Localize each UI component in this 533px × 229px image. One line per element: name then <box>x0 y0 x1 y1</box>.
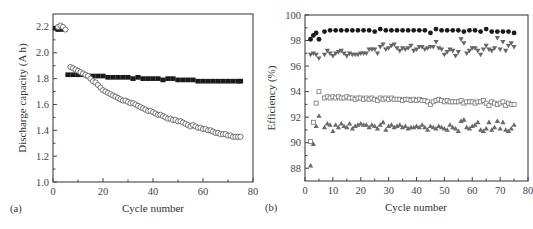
x-tick-label: 50 <box>439 185 450 196</box>
y-tick-label: 90 <box>291 137 302 148</box>
x-tick-label: 60 <box>467 185 478 196</box>
y-tick-label: 2.0 <box>36 47 49 58</box>
data-points-b <box>308 27 517 168</box>
series-filled-circles <box>308 27 516 42</box>
y-tick-label: 2.2 <box>36 21 49 32</box>
series-filled-up-triangles <box>308 113 517 167</box>
plot-frame-a <box>53 14 253 182</box>
x-tick-label: 20 <box>98 186 109 197</box>
y-tick-label: 100 <box>285 10 301 21</box>
chart-panel-a: 0204060801.01.21.41.61.82.02.2 Cycle num… <box>10 14 258 215</box>
x-tick-label: 70 <box>495 185 506 196</box>
chart-panel-b: 01020304050607080889092949698100 Cycle n… <box>265 10 533 215</box>
x-axis-label-b: Cycle number <box>385 201 447 213</box>
y-tick-label: 1.6 <box>36 99 49 110</box>
panel-label-b: (b) <box>265 202 278 214</box>
x-axis-label-a: Cycle number <box>122 202 184 214</box>
y-tick-label: 1.4 <box>36 125 50 136</box>
y-tick-label: 98 <box>291 35 302 46</box>
x-tick-label: 0 <box>302 185 307 196</box>
y-tick-label: 1.2 <box>36 151 49 162</box>
x-tick-label: 20 <box>356 185 367 196</box>
x-tick-label: 40 <box>411 185 422 196</box>
y-tick-label: 1.8 <box>36 73 49 84</box>
x-tick-label: 10 <box>328 185 339 196</box>
x-tick-label: 0 <box>50 186 55 197</box>
y-tick-label: 1.0 <box>36 177 49 188</box>
x-tick-label: 40 <box>148 186 159 197</box>
x-tick-label: 30 <box>383 185 394 196</box>
series-open-squares <box>309 90 516 144</box>
y-axis-label-a: Discharge capacity (A h) <box>16 43 29 153</box>
y-tick-label: 96 <box>291 61 302 72</box>
x-tick-label: 80 <box>523 185 533 196</box>
y-axis-label-b: Efficiency (%) <box>265 65 278 130</box>
figure: 0204060801.01.21.41.61.82.02.2 Cycle num… <box>0 0 533 229</box>
y-tick-label: 92 <box>291 112 302 123</box>
data-points-a <box>53 23 243 139</box>
panel-label-a: (a) <box>10 203 22 215</box>
x-tick-label: 80 <box>248 186 259 197</box>
series-filled-down-triangles <box>308 36 517 61</box>
y-tick-label: 88 <box>291 163 302 174</box>
y-tick-label: 94 <box>291 86 302 97</box>
x-tick-label: 60 <box>198 186 209 197</box>
